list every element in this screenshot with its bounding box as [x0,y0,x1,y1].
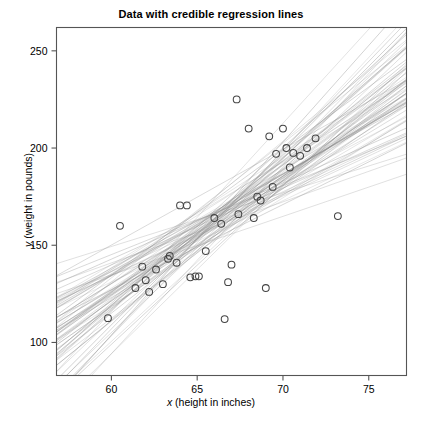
y-axis-label-symbol: y [22,242,34,247]
data-point [221,316,228,323]
data-point [283,145,290,152]
x-axis-label: x (height in inches) [0,396,422,408]
x-tick-label: 60 [106,383,118,395]
x-tick-label: 65 [191,383,203,395]
y-axis-label-text: (weight in pounds) [22,153,34,242]
scatter-plot: 60657075100150200250 [0,0,422,421]
y-axis-label: y (weight in pounds) [22,90,34,310]
data-point [262,285,269,292]
data-point [228,261,235,268]
data-point [225,279,232,286]
data-point [159,281,166,288]
figure-container: Data with credible regression lines 6065… [0,0,422,421]
x-axis-ticks: 60657075 [106,376,375,395]
x-tick-label: 75 [363,383,375,395]
x-tick-label: 70 [277,383,289,395]
data-point [117,222,124,229]
data-point [334,213,341,220]
credible-regression-lines [57,0,407,413]
data-point [280,125,287,132]
y-tick-label: 100 [30,336,48,348]
data-point [233,96,240,103]
x-axis-label-text: (height in inches) [172,396,255,408]
data-point [245,125,252,132]
y-tick-label: 250 [30,45,48,57]
